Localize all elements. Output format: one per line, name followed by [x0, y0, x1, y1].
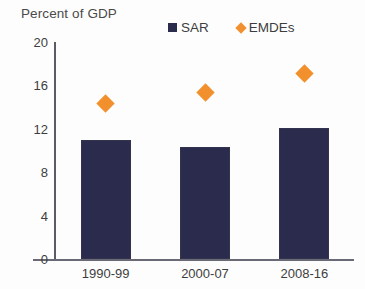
bar-sar	[180, 147, 230, 259]
y-tick-label: 0	[41, 252, 48, 267]
x-tick-label: 1990-99	[82, 266, 130, 281]
y-tick-label: 20	[34, 35, 48, 50]
y-tick-label: 12	[34, 121, 48, 136]
legend-square-icon	[168, 23, 177, 32]
chart-container: Percent of GDP SAR EMDEs 048121620 1990-…	[0, 0, 365, 289]
x-axis-line	[33, 259, 354, 261]
x-tick-label: 2008-16	[280, 266, 328, 281]
bar-sar	[81, 140, 131, 259]
legend-label-emdes: EMDEs	[249, 20, 295, 35]
y-tick-label: 16	[34, 78, 48, 93]
y-axis-tick-labels: 048121620	[0, 0, 48, 289]
legend-entry-sar: SAR	[168, 20, 209, 35]
y-tick-label: 8	[41, 165, 48, 180]
legend-label-sar: SAR	[181, 20, 209, 35]
legend-entry-emdes: EMDEs	[237, 20, 295, 35]
y-tick-label: 4	[41, 208, 48, 223]
legend-diamond-icon	[235, 22, 246, 33]
x-tick-label: 2000-07	[181, 266, 229, 281]
bar-sar	[279, 128, 329, 259]
chart-legend: SAR EMDEs	[168, 20, 295, 35]
